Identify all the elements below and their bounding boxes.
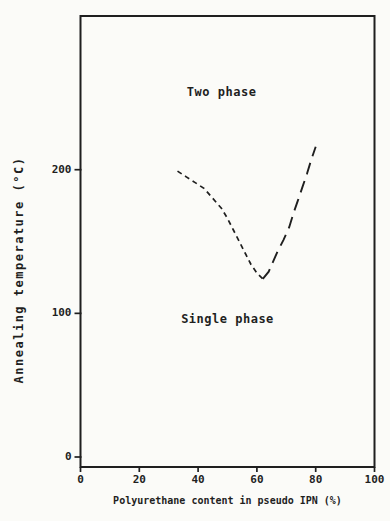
x-tick-label: 20 xyxy=(133,473,146,486)
y-axis-title: Annealing temperature (°C) xyxy=(12,150,26,390)
region-label-single-phase: Single phase xyxy=(181,312,274,326)
y-tick-label: 0 xyxy=(32,450,72,463)
region-label-two-phase: Two phase xyxy=(187,85,257,99)
x-axis-title: Polyurethane content in pseudo IPN (%) xyxy=(80,495,375,506)
x-tick-label: 40 xyxy=(191,473,204,486)
x-tick-label: 80 xyxy=(309,473,322,486)
x-tick-label: 60 xyxy=(250,473,263,486)
x-tick-label: 0 xyxy=(77,473,84,486)
x-tick-label: 100 xyxy=(365,473,385,486)
y-tick-label: 100 xyxy=(32,306,72,319)
label-overlay: Annealing temperature (°C) Polyurethane … xyxy=(0,0,390,521)
y-tick-label: 200 xyxy=(32,163,72,176)
figure-page: Annealing temperature (°C) Polyurethane … xyxy=(0,0,390,521)
